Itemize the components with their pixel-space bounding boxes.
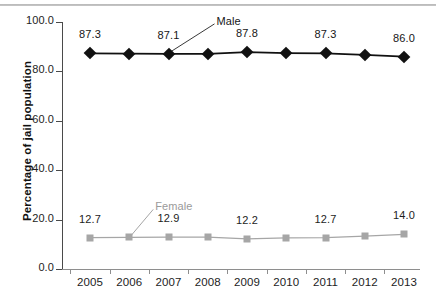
- x-axis-line: [62, 269, 420, 270]
- marker-male-2007: [162, 47, 175, 60]
- value-label-female-2005: 12.7: [64, 213, 116, 225]
- y-axis-line: [62, 22, 63, 270]
- chart-figure: Percentage of jail population 0.020.040.…: [0, 0, 436, 303]
- y-tick: [56, 22, 62, 23]
- marker-female-2007: [165, 234, 172, 241]
- marker-male-2006: [123, 47, 136, 60]
- marker-female-2012: [361, 233, 368, 240]
- marker-male-2010: [280, 47, 293, 60]
- y-tick-label: 80.0: [6, 63, 54, 75]
- marker-male-2005: [84, 47, 97, 60]
- marker-female-2009: [244, 235, 251, 242]
- marker-female-2010: [283, 234, 290, 241]
- plot-lines: [0, 0, 436, 303]
- value-label-female-2009: 12.2: [221, 214, 273, 226]
- x-tick: [70, 269, 71, 274]
- marker-male-2009: [241, 46, 254, 59]
- value-label-male-2009: 87.8: [221, 27, 273, 39]
- value-label-male-2013: 86.0: [378, 32, 430, 44]
- value-label-female-2011: 12.7: [300, 213, 352, 225]
- y-tick-label: 20.0: [6, 212, 54, 224]
- x-tick: [306, 269, 307, 274]
- value-label-male-2007: 87.1: [143, 29, 195, 41]
- marker-female-2008: [204, 234, 211, 241]
- marker-female-2006: [126, 234, 133, 241]
- annotation-female: Female: [155, 200, 192, 212]
- x-tick: [345, 269, 346, 274]
- x-tick-label-2013: 2013: [381, 276, 427, 288]
- value-label-male-2005: 87.3: [64, 28, 116, 40]
- marker-male-2008: [201, 47, 214, 60]
- y-tick: [56, 170, 62, 171]
- marker-male-2011: [319, 47, 332, 60]
- y-tick-label: 0.0: [6, 261, 54, 273]
- y-tick-label: 100.0: [6, 14, 54, 26]
- x-tick: [227, 269, 228, 274]
- x-tick: [149, 269, 150, 274]
- marker-female-2011: [322, 234, 329, 241]
- value-label-female-2013: 14.0: [378, 209, 430, 221]
- marker-male-2012: [358, 48, 371, 61]
- x-tick: [110, 269, 111, 274]
- y-tick: [56, 220, 62, 221]
- value-label-male-2011: 87.3: [300, 28, 352, 40]
- marker-male-2013: [398, 50, 411, 63]
- annotation-male: Male: [217, 15, 241, 27]
- x-tick: [188, 269, 189, 274]
- marker-female-2013: [401, 231, 408, 238]
- y-tick: [56, 71, 62, 72]
- y-tick-label: 60.0: [6, 113, 54, 125]
- y-tick-label: 40.0: [6, 162, 54, 174]
- value-label-female-2007: 12.9: [143, 212, 195, 224]
- scan-artifact-line: [0, 4, 436, 6]
- x-tick: [384, 269, 385, 274]
- marker-female-2005: [87, 234, 94, 241]
- y-tick: [56, 121, 62, 122]
- x-tick: [267, 269, 268, 274]
